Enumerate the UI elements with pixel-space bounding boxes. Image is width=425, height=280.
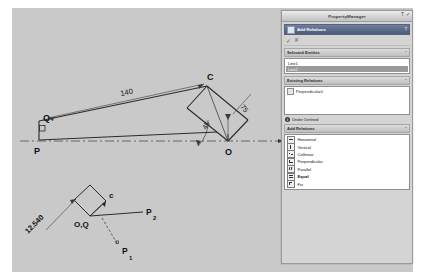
list-item-label: Perpendicular0: [296, 89, 323, 94]
existing-relations-list[interactable]: Perpendicular0: [284, 86, 410, 115]
label-point-p: P: [34, 146, 40, 156]
add-relations-icon: [287, 26, 295, 34]
panel-title: PropertyManager: [328, 14, 366, 19]
dim-label-140[interactable]: 140: [120, 87, 134, 98]
add-relations-header[interactable]: Add Relations ?: [284, 24, 410, 35]
detail-arm-p2: [90, 212, 143, 216]
detail-label-oq: O,Q: [74, 220, 89, 229]
chevron-up-icon[interactable]: ⌃: [404, 126, 407, 131]
link-p-o-lower: [39, 132, 217, 140]
relation-fix[interactable]: Fix: [286, 180, 408, 187]
detail-label-p2-subscript: 2: [153, 215, 157, 221]
add-relations-title: Add Relations: [297, 27, 402, 32]
dim-line-75: [233, 94, 251, 114]
selected-entities-list[interactable]: Line1 Line2: [284, 58, 410, 74]
detail-arrow-c: [102, 201, 106, 207]
list-item[interactable]: Line2: [286, 66, 408, 72]
relation-parallel[interactable]: Parallel: [286, 166, 408, 173]
relation-label: Horizontal: [298, 137, 316, 142]
text-icon[interactable]: T: [401, 12, 404, 17]
relation-equal[interactable]: Equal: [286, 173, 408, 180]
detail-dim-line: [46, 199, 76, 230]
selected-entities-header[interactable]: Selected Entities ⌃: [284, 48, 410, 57]
detail-line-p1: [102, 218, 118, 245]
status-badge: Under Defined: [292, 117, 318, 122]
panel-titlebar[interactable]: PropertyManager T ✓: [282, 11, 412, 22]
angle-arrow-45: [196, 140, 201, 146]
list-item[interactable]: Perpendicular0: [286, 88, 408, 94]
existing-relations-section: Existing Relations ⌃ Perpendicular0: [284, 76, 410, 115]
chevron-up-icon[interactable]: ⌃: [404, 78, 407, 83]
relation-label: Equal: [298, 174, 309, 179]
check-icon[interactable]: ✓: [406, 12, 410, 17]
selected-entities-section: Selected Entities ⌃ Line1 Line2: [284, 48, 410, 74]
relation-label: Parallel: [298, 167, 312, 172]
relation-vertical[interactable]: Vertical: [286, 143, 408, 150]
screenshot-root: P Q C O 140 75 45 c O,Q P 2 P 1 12.540 P…: [0, 0, 425, 280]
relation-label: Vertical: [298, 145, 311, 150]
cancel-button[interactable]: ✘: [294, 38, 299, 44]
selected-entities-title: Selected Entities: [287, 50, 320, 55]
fix-icon: [287, 180, 295, 188]
right-angle-mark-q: [40, 126, 46, 132]
titlebar-icons: T ✓: [401, 12, 410, 17]
label-point-q: Q: [43, 113, 50, 123]
relation-label: Collinear: [298, 152, 314, 157]
perpendicular-icon: [287, 88, 294, 95]
property-manager-panel[interactable]: PropertyManager T ✓ Add Relations ? ✓ ✘ …: [281, 10, 413, 264]
detail-label-p1-subscript: 1: [129, 255, 133, 261]
relation-horizontal[interactable]: Horizontal: [286, 136, 408, 143]
list-item-label: Line1: [288, 61, 298, 66]
status-row: i Under Defined: [284, 117, 410, 122]
dim-arrow-75: [225, 114, 231, 120]
accept-button[interactable]: ✓: [286, 38, 291, 44]
panel-toolbar: ✓ ✘: [284, 36, 410, 46]
label-point-c: C: [207, 72, 214, 82]
block-edge-right: [228, 120, 248, 141]
detail-edge-4: [74, 185, 90, 200]
dim-label-75[interactable]: 75: [239, 103, 249, 114]
add-relations-section-title: Add Relations: [287, 126, 315, 131]
detail-edge-3: [90, 185, 106, 201]
relation-label: Fix: [298, 182, 303, 187]
detail-edge-1: [74, 200, 90, 216]
detail-dim-label[interactable]: 12.540: [23, 213, 46, 236]
dim-label-45[interactable]: 45: [201, 120, 211, 130]
detail-label-p1: P: [122, 246, 128, 256]
add-relations-section-header[interactable]: Add Relations ⌃: [284, 124, 410, 133]
detail-label-p2: P: [146, 207, 152, 217]
detail-label-c: c: [109, 191, 114, 200]
list-item-label: Line2: [288, 67, 298, 72]
add-relations-section: Add Relations ⌃ Horizontal Vertical: [284, 124, 410, 190]
relation-perpendicular[interactable]: Perpendicular: [286, 158, 408, 165]
chevron-up-icon[interactable]: ⌃: [404, 50, 407, 55]
relation-label: Perpendicular: [298, 159, 323, 164]
help-icon[interactable]: ?: [404, 27, 407, 32]
add-relations-list[interactable]: Horizontal Vertical Collinear: [284, 134, 410, 190]
existing-relations-header[interactable]: Existing Relations ⌃: [284, 76, 410, 85]
label-point-o: O: [225, 147, 232, 157]
relation-collinear[interactable]: Collinear: [286, 151, 408, 158]
existing-relations-title: Existing Relations: [287, 78, 323, 83]
info-icon: i: [285, 117, 290, 122]
